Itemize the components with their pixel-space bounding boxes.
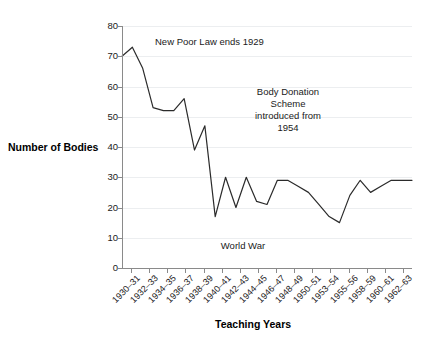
y-tick-label: 0: [92, 263, 118, 273]
y-tick-mark: [118, 26, 122, 27]
y-tick-mark: [118, 56, 122, 57]
y-axis-line: [122, 26, 123, 269]
y-tick-label: 30: [92, 172, 118, 182]
chart-figure: 01020304050607080 1930–311932–331934–351…: [0, 0, 435, 342]
annotation-new-poor-law: New Poor Law ends 1929: [155, 36, 264, 48]
y-tick-label: 70: [92, 51, 118, 61]
y-tick-label: 50: [92, 112, 118, 122]
x-axis-title: Teaching Years: [215, 318, 291, 330]
y-axis-title: Number of Bodies: [8, 141, 108, 153]
y-tick-label: 80: [92, 21, 118, 31]
y-tick-mark: [118, 147, 122, 148]
y-tick-label: 10: [92, 233, 118, 243]
plot-area: [122, 26, 412, 268]
line-series: [122, 26, 412, 268]
y-tick-mark: [118, 87, 122, 88]
y-tick-mark: [118, 177, 122, 178]
annotation-world-war: World War: [221, 240, 265, 252]
annotation-body-donation-scheme: Body Donation Scheme introduced from 195…: [255, 86, 321, 134]
y-tick-label: 60: [92, 82, 118, 92]
y-tick-mark: [118, 208, 122, 209]
y-tick-label: 20: [92, 203, 118, 213]
y-tick-mark: [118, 117, 122, 118]
y-tick-mark: [118, 238, 122, 239]
